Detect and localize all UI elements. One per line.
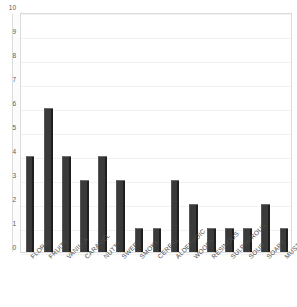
bar-chart: 012345678910 FLORALFRUITYVANILLACARAMELN… [0, 0, 297, 307]
y-axis-tick-label: 4 [0, 149, 16, 155]
plot-area [20, 13, 292, 253]
y-axis-tick-label: 5 [0, 125, 16, 131]
bar-slot [239, 12, 257, 252]
bar-slot [275, 12, 293, 252]
y-axis-tick-label: 6 [0, 101, 16, 107]
bar[interactable] [26, 156, 35, 252]
bar-slot [166, 12, 184, 252]
y-axis-tick-label: 1 [0, 221, 16, 227]
y-axis-tick-label: 9 [0, 29, 16, 35]
y-axis-tick-label: 8 [0, 53, 16, 59]
bar-slot [202, 12, 220, 252]
y-axis-tick-label: 10 [0, 5, 16, 11]
x-axis: FLORALFRUITYVANILLACARAMELNUTTYSWEETSMOK… [20, 255, 292, 307]
y-axis-tick-label: 2 [0, 197, 16, 203]
y-axis-tick-label: 0 [0, 245, 16, 251]
bar-slot [57, 12, 75, 252]
y-axis-tick-label: 3 [0, 173, 16, 179]
bar[interactable] [44, 108, 53, 252]
bar-slot [148, 12, 166, 252]
bar-slot [257, 12, 275, 252]
bar-slot [130, 12, 148, 252]
bars-layer [21, 14, 291, 252]
bar-slot [94, 12, 112, 252]
y-axis-tick-label: 7 [0, 77, 16, 83]
bar-slot [220, 12, 238, 252]
bar-slot [21, 12, 39, 252]
chart-title-remnant [40, 0, 180, 1]
bar-slot [184, 12, 202, 252]
y-axis: 012345678910 [0, 8, 16, 258]
bar-slot [112, 12, 130, 252]
bar-slot [39, 12, 57, 252]
bar-slot [75, 12, 93, 252]
